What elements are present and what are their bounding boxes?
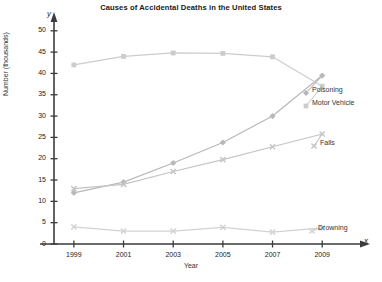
x-axis-arrow-icon <box>360 241 370 248</box>
y-tick-label: 10 <box>26 197 46 204</box>
data-point-marker <box>170 160 176 166</box>
y-tick-label: 40 <box>26 69 46 76</box>
y-axis-arrow-icon <box>51 12 58 22</box>
legend-label-drowning: Drowning <box>318 224 348 231</box>
chart-container: Causes of Accidental Deaths in the Unite… <box>0 0 382 282</box>
x-tick-label: 2003 <box>158 251 188 258</box>
series-line <box>74 53 322 86</box>
x-tick-label: 2005 <box>208 251 238 258</box>
legend-label-poisoning: Poisoning <box>312 86 343 93</box>
y-tick-label: 50 <box>26 26 46 33</box>
data-point-marker <box>270 54 275 59</box>
x-tick-label: 2001 <box>109 251 139 258</box>
legend-label-falls: Falls <box>320 139 335 146</box>
x-tick-label: 2007 <box>258 251 288 258</box>
series-drowning <box>71 224 325 234</box>
y-tick-label: 30 <box>26 112 46 119</box>
series-poisoning <box>71 72 326 195</box>
series-line <box>74 134 322 189</box>
data-point-marker <box>171 51 176 56</box>
y-tick-label: 15 <box>26 176 46 183</box>
x-tick-label: 1999 <box>59 251 89 258</box>
legend-label-motor-vehicle: Motor Vehicle <box>312 99 354 106</box>
data-point-marker <box>121 54 126 59</box>
series-motor-vehicle <box>71 51 324 89</box>
y-tick-label: 25 <box>26 133 46 140</box>
data-point-marker <box>311 143 316 148</box>
y-tick-label: 20 <box>26 154 46 161</box>
data-point-marker <box>220 139 226 145</box>
data-point-marker <box>71 63 76 68</box>
data-point-marker <box>220 51 225 56</box>
x-tick-label: 2009 <box>307 251 337 258</box>
data-point-marker <box>304 104 309 109</box>
series-line <box>74 76 322 193</box>
series-falls <box>71 131 325 191</box>
y-tick-label: 35 <box>26 90 46 97</box>
y-tick-label: 45 <box>26 48 46 55</box>
series-line <box>74 227 322 232</box>
y-tick-label: 5 <box>26 218 46 225</box>
y-tick-label: 0 <box>26 240 46 247</box>
